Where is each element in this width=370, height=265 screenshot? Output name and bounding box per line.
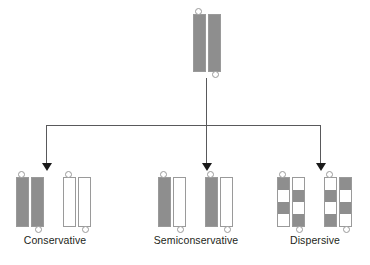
dispersive-duplex-1 [277,177,305,227]
semiconservative-duplex-2-tab-bottom-right-icon [224,226,231,233]
dispersive-duplex-2-strand-left [324,177,337,227]
dispersive-duplex-2 [324,177,352,227]
parent-strand-left [193,14,206,72]
semiconservative-duplex-2-strand-right [220,177,233,227]
dispersive-duplex-1-tab-top-left-icon [279,171,286,178]
dispersive-duplex-2-strand-right [339,177,352,227]
arrow-semiconservative [202,163,212,171]
checker-block [293,214,304,226]
connector-parent-stem [206,78,207,125]
connector-horizontal-bar [46,125,321,126]
checker-block [325,178,336,190]
checker-block [278,202,289,214]
parent-strand-right [208,14,221,72]
checker-block [340,214,351,226]
conservative-duplex-1-tab-bottom-right-icon [35,226,42,233]
connector-drop-semiconservative [206,125,207,165]
parent-tab-bottom-right-icon [212,71,219,78]
conservative-duplex-2-tab-top-left-icon [65,171,72,178]
checker-block [325,202,336,214]
semiconservative-duplex-1-tab-top-left-icon [160,171,167,178]
conservative-duplex-1-strand-left [16,177,29,227]
checker-block [340,178,351,190]
label-conservative: Conservative [10,234,100,246]
checker-block [278,178,289,190]
checker-block [293,178,304,190]
semiconservative-duplex-1-strand-right [173,177,186,227]
dispersive-duplex-2-tab-top-left-icon [326,171,333,178]
checker-block [293,202,304,214]
semiconservative-duplex-2-strand-left [205,177,218,227]
checker-block [293,190,304,202]
arrow-dispersive [316,163,326,171]
dispersive-duplex-1-tab-bottom-right-icon [296,226,303,233]
conservative-duplex-2-strand-left [63,177,76,227]
parent-dna-duplex [193,14,221,72]
dispersive-duplex-1-strand-left [277,177,290,227]
conservative-duplex-2-strand-right [78,177,91,227]
arrow-conservative [42,163,52,171]
checker-block [325,190,336,202]
conservative-duplex-1-strand-right [31,177,44,227]
semiconservative-duplex-2-tab-top-left-icon [207,171,214,178]
dispersive-duplex-1-strand-right [292,177,305,227]
conservative-duplex-1-tab-top-left-icon [18,171,25,178]
checker-block [340,190,351,202]
label-dispersive: Dispersive [270,234,360,246]
conservative-duplex-1 [16,177,44,227]
checker-block [278,190,289,202]
semiconservative-duplex-1 [158,177,186,227]
parent-tab-top-left-icon [195,8,202,15]
connector-drop-dispersive [320,125,321,165]
semiconservative-duplex-1-strand-left [158,177,171,227]
checker-block [340,202,351,214]
dispersive-duplex-2-tab-bottom-right-icon [343,226,350,233]
label-semiconservative: Semiconservative [151,234,241,246]
checker-block [325,214,336,226]
semiconservative-duplex-2 [205,177,233,227]
checker-block [278,214,289,226]
conservative-duplex-2-tab-bottom-right-icon [82,226,89,233]
dna-replication-models-diagram: Conservative Semiconservative [0,0,370,265]
conservative-duplex-2 [63,177,91,227]
semiconservative-duplex-1-tab-bottom-right-icon [177,226,184,233]
connector-drop-conservative [46,125,47,165]
